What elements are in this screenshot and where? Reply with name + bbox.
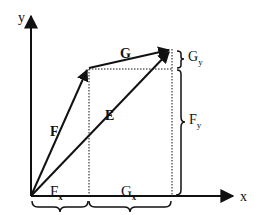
brace-gy xyxy=(177,51,184,68)
brace-gx xyxy=(89,201,171,212)
label-gx-main: G xyxy=(121,183,132,199)
label-fx-sub: x xyxy=(58,192,63,202)
label-fy-main: F xyxy=(189,112,197,127)
vector-f xyxy=(31,70,87,196)
label-fy-sub: y xyxy=(197,120,202,130)
label-gy-sub: y xyxy=(198,57,203,67)
label-fy: Fy xyxy=(189,112,201,130)
vector-g-label: G xyxy=(120,46,131,61)
y-axis-label: y xyxy=(18,10,25,25)
label-gx-sub: x xyxy=(132,192,137,202)
vector-f-label: F xyxy=(50,124,59,139)
label-fx: Fx xyxy=(50,183,63,202)
label-gy: Gy xyxy=(188,49,203,67)
brace-fy xyxy=(176,70,185,195)
label-gx: Gx xyxy=(121,183,136,202)
brace-fx xyxy=(32,201,88,212)
x-axis-label: x xyxy=(240,189,247,204)
label-gy-main: G xyxy=(188,49,198,64)
vector-e-label: E xyxy=(105,108,114,123)
